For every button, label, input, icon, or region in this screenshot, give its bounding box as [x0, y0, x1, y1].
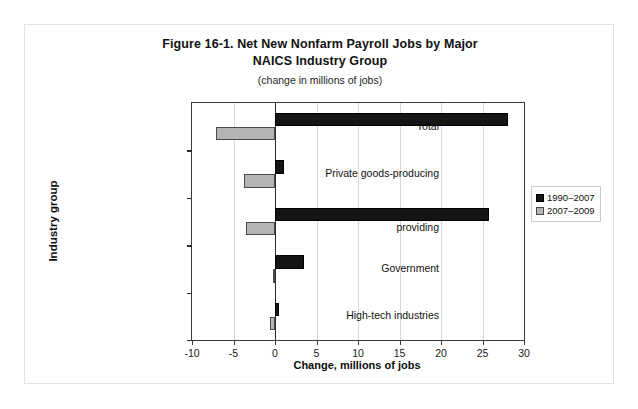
y-axis-tick: [187, 293, 192, 294]
figure-frame: Figure 16-1. Net New Nonfarm Payroll Job…: [24, 24, 614, 384]
y-axis-tick: [187, 150, 192, 151]
legend-entry-label: 2007–2009: [547, 205, 595, 216]
y-axis-tick: [187, 245, 192, 246]
x-axis-tick-label: 15: [394, 347, 406, 359]
legend-swatch-icon: [536, 207, 544, 215]
y-axis-category-label: High-tech industries: [279, 309, 439, 322]
x-axis-tick: [400, 340, 401, 345]
x-axis-tick: [192, 340, 193, 345]
x-axis-tick-label: 20: [435, 347, 447, 359]
x-axis-tick: [234, 340, 235, 345]
x-axis-title: Change, millions of jobs: [191, 359, 523, 371]
x-axis-tick-label: -5: [229, 347, 238, 359]
x-axis-tick-label: -10: [184, 347, 199, 359]
x-axis-tick-label: 10: [352, 347, 364, 359]
gridline: [483, 103, 484, 340]
bar: [246, 222, 275, 236]
x-axis-tick-label: 0: [272, 347, 278, 359]
legend-entry-label: 1990–2007: [547, 192, 595, 203]
x-axis-tick: [483, 340, 484, 345]
chart-subtitle: (change in millions of jobs): [25, 72, 615, 88]
y-axis-category-label: Private goods-producing: [279, 167, 439, 180]
x-axis-tick: [524, 340, 525, 345]
chart-title-line-1: Figure 16-1. Net New Nonfarm Payroll Job…: [25, 36, 615, 53]
y-axis-category-label: Government: [279, 261, 439, 274]
gridline: [441, 103, 442, 340]
bar: [273, 269, 275, 283]
y-axis-title: Industry group: [47, 180, 59, 261]
legend-entry: 1990–2007: [536, 191, 595, 204]
chart-title-line-2: NAICS Industry Group: [25, 53, 615, 70]
x-axis-tick: [317, 340, 318, 345]
y-axis-category-label: Private service- providing: [279, 208, 439, 234]
x-axis-tick-label: 5: [314, 347, 320, 359]
y-axis-tick: [187, 340, 192, 341]
x-axis-tick: [358, 340, 359, 345]
x-axis-tick-label: 30: [518, 347, 530, 359]
bar: [216, 127, 275, 141]
bar: [244, 174, 275, 188]
y-axis-category-label: Total: [279, 119, 439, 132]
chart-legend: 1990–2007 2007–2009: [531, 186, 601, 222]
legend-swatch-icon: [536, 194, 544, 202]
x-axis-tick-label: 25: [477, 347, 489, 359]
bar: [270, 317, 275, 331]
y-axis-tick: [187, 198, 192, 199]
x-axis-tick: [441, 340, 442, 345]
legend-entry: 2007–2009: [536, 204, 595, 217]
chart-title-block: Figure 16-1. Net New Nonfarm Payroll Job…: [25, 36, 615, 88]
x-axis-tick: [275, 340, 276, 345]
